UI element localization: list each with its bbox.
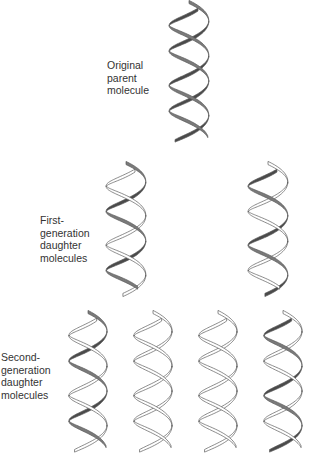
- label-line: generation: [1, 364, 51, 377]
- label-line: daughter: [1, 376, 51, 389]
- parental-strand-b-back: [169, 8, 198, 26]
- dna-double-helix-icon: [63, 312, 113, 452]
- dna-double-helix-icon: [163, 2, 215, 142]
- parental-strand-b-back: [248, 169, 277, 187]
- label-line: molecule: [107, 84, 149, 97]
- new-strand-b-back: [199, 318, 227, 336]
- dna-helix-gen2-1: [63, 312, 113, 452]
- label-second-generation: Second- generation daughter molecules: [1, 351, 51, 401]
- label-line: First-: [40, 214, 90, 227]
- dna-helix-gen1-right: [242, 163, 294, 295]
- dna-helix-gen2-4: [258, 312, 308, 452]
- dna-double-helix-icon: [242, 163, 294, 295]
- label-original-parent-molecule: Original parent molecule: [107, 59, 149, 97]
- label-first-generation: First- generation daughter molecules: [40, 214, 90, 264]
- label-line: Original: [107, 59, 149, 72]
- dna-double-helix-icon: [100, 163, 152, 295]
- new-strand-a-front: [248, 270, 279, 289]
- new-strand-b-back: [69, 318, 97, 336]
- label-line: Second-: [1, 351, 51, 364]
- label-line: molecules: [1, 389, 51, 402]
- new-strand-b-back: [134, 318, 162, 336]
- new-strand-b-back: [106, 169, 135, 187]
- dna-double-helix-icon: [258, 312, 308, 452]
- dna-helix-gen2-3: [193, 312, 243, 452]
- dna-helix-gen2-2: [128, 312, 178, 452]
- dna-double-helix-icon: [193, 312, 243, 452]
- parental-strand-a-front: [106, 270, 137, 289]
- dna-helix-gen1-left: [100, 163, 152, 295]
- dna-double-helix-icon: [128, 312, 178, 452]
- label-line: molecules: [40, 252, 90, 265]
- label-line: generation: [40, 227, 90, 240]
- label-line: parent: [107, 72, 149, 85]
- parental-strand-b-back: [264, 318, 292, 336]
- label-line: daughter: [40, 239, 90, 252]
- dna-helix-parent: [163, 2, 215, 142]
